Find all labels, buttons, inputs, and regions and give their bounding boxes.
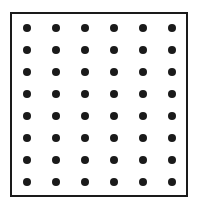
grid-dot <box>81 134 89 142</box>
grid-dot <box>23 68 31 76</box>
grid-dot <box>52 24 60 32</box>
grid-dot <box>23 112 31 120</box>
grid-dot <box>139 68 147 76</box>
grid-dot <box>168 46 176 54</box>
grid-dot <box>81 90 89 98</box>
grid-dot <box>110 68 118 76</box>
grid-dot <box>110 178 118 186</box>
grid-dot <box>23 24 31 32</box>
grid-dot <box>168 178 176 186</box>
grid-dot <box>52 46 60 54</box>
grid-dot <box>52 156 60 164</box>
grid-dot <box>110 90 118 98</box>
grid-dot <box>81 112 89 120</box>
grid-dot <box>110 134 118 142</box>
grid-dot <box>110 46 118 54</box>
grid-dot <box>52 68 60 76</box>
grid-dot <box>23 46 31 54</box>
grid-dot <box>52 134 60 142</box>
grid-dot <box>23 178 31 186</box>
grid-dot <box>139 134 147 142</box>
grid-dot <box>23 134 31 142</box>
grid-dot <box>168 112 176 120</box>
grid-dot <box>168 90 176 98</box>
grid-dot <box>52 112 60 120</box>
grid-dot <box>168 24 176 32</box>
grid-dot <box>168 68 176 76</box>
grid-frame <box>10 12 188 197</box>
grid-dot <box>52 178 60 186</box>
grid-dot <box>139 112 147 120</box>
grid-dot <box>139 156 147 164</box>
grid-dot <box>81 24 89 32</box>
grid-dot <box>23 156 31 164</box>
grid-dot <box>139 90 147 98</box>
grid-dot <box>139 178 147 186</box>
grid-dot <box>81 46 89 54</box>
grid-dot <box>139 46 147 54</box>
grid-dot <box>110 24 118 32</box>
grid-dot <box>23 90 31 98</box>
grid-dot <box>52 90 60 98</box>
grid-dot <box>81 156 89 164</box>
grid-dot <box>139 24 147 32</box>
grid-dot <box>81 178 89 186</box>
grid-dot <box>110 112 118 120</box>
grid-dot <box>110 156 118 164</box>
grid-dot <box>81 68 89 76</box>
grid-dot <box>168 156 176 164</box>
grid-dot <box>168 134 176 142</box>
